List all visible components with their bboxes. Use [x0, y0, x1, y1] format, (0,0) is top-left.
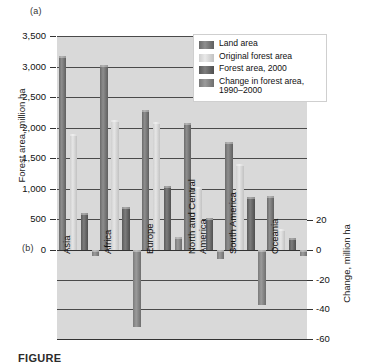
bar-cap [236, 164, 244, 166]
legend-label: Original forest area [219, 52, 292, 62]
category-label: North and Central [186, 179, 197, 254]
bar-group [142, 36, 183, 339]
bar-cap [184, 123, 192, 125]
y-tick-mark-right [307, 339, 313, 340]
category-label: Oceania [269, 219, 280, 254]
bar [164, 186, 172, 250]
bar [175, 237, 183, 250]
bar-cap [81, 213, 89, 215]
bar [59, 56, 67, 250]
y-tick-mark-right [307, 220, 313, 221]
bar-cap [111, 120, 119, 122]
y-tick-label-left: 2,500 [0, 91, 46, 102]
y-tick-label-right: 20 [316, 214, 346, 225]
bar-cap [247, 197, 255, 199]
y-tick-mark-left [50, 158, 56, 159]
legend-label: Land area [219, 39, 258, 49]
bar-cap [267, 196, 275, 198]
bar-cap [142, 110, 150, 112]
y-tick-label-right: -20 [316, 274, 346, 285]
legend-item: Land area [199, 39, 322, 49]
y-tick-mark-left [50, 128, 56, 129]
bar [70, 134, 78, 250]
category-label: Europe [144, 223, 155, 254]
bar-cap [164, 186, 172, 188]
bar [92, 250, 100, 256]
legend-swatch [199, 79, 214, 87]
panel-label-a: (a) [30, 6, 42, 16]
y-tick-label-left: 0 [0, 244, 46, 255]
legend-label: Change in forest area, 1990–2000 [219, 77, 322, 96]
legend-label: Forest area, 2000 [219, 64, 287, 74]
y-tick-label-left: 2,000 [0, 122, 46, 133]
bar-cap [217, 250, 225, 252]
legend-swatch [199, 54, 214, 62]
y-tick-mark-left [50, 189, 56, 190]
bar-cap [92, 250, 100, 252]
y-tick-mark-left [50, 67, 56, 68]
category-label: America [197, 219, 208, 254]
y-tick-label-right: 0 [316, 244, 346, 255]
y-tick-label-left: 1,500 [0, 152, 46, 163]
y-tick-label-left: 500 [0, 213, 46, 224]
bar [81, 213, 89, 250]
legend-swatch [199, 41, 214, 49]
bar [122, 207, 130, 250]
y-tick-label-left: 1,000 [0, 183, 46, 194]
bar [247, 197, 255, 250]
bar-cap [70, 134, 78, 136]
y-tick-mark-left [50, 219, 56, 220]
bar [258, 250, 266, 305]
y-tick-mark-right [307, 309, 313, 310]
category-label: South America [227, 192, 238, 254]
bar-cap [175, 237, 183, 239]
legend-item: Forest area, 2000 [199, 64, 322, 74]
y-tick-label-left: 3,000 [0, 61, 46, 72]
y-tick-mark-right [307, 280, 313, 281]
bar-cap [122, 207, 130, 209]
category-label: Asia [61, 236, 72, 254]
chart-legend: Land areaOriginal forest areaForest area… [193, 34, 327, 102]
bar-group [59, 36, 100, 339]
y-tick-mark-left [50, 97, 56, 98]
bar-cap [289, 238, 297, 240]
y-tick-label-right: -60 [316, 333, 346, 344]
bar-cap [258, 250, 266, 252]
bar-cap [225, 142, 233, 144]
axis-bottom-line [57, 339, 307, 340]
figure-caption: FIGURE [18, 352, 61, 364]
bar-cap [100, 65, 108, 67]
y-tick-mark-left [50, 36, 56, 37]
legend-item: Original forest area [199, 52, 322, 62]
bar-cap [133, 250, 141, 252]
category-label: Africa [102, 230, 113, 254]
bar-group [100, 36, 141, 339]
bar-cap [59, 56, 67, 58]
figure-forest-area: (a) (b) Forest area, million ha Change, … [0, 0, 371, 364]
legend-swatch [199, 66, 214, 74]
bar-cap [153, 122, 161, 124]
legend-item: Change in forest area, 1990–2000 [199, 77, 322, 96]
bar [133, 250, 141, 327]
y-tick-mark-right [307, 250, 313, 251]
y-tick-label-right: -40 [316, 303, 346, 314]
bar [217, 250, 225, 259]
y-tick-label-left: 3,500 [0, 30, 46, 41]
bar [100, 65, 108, 250]
y-tick-mark-left [50, 250, 56, 251]
bar [289, 238, 297, 250]
